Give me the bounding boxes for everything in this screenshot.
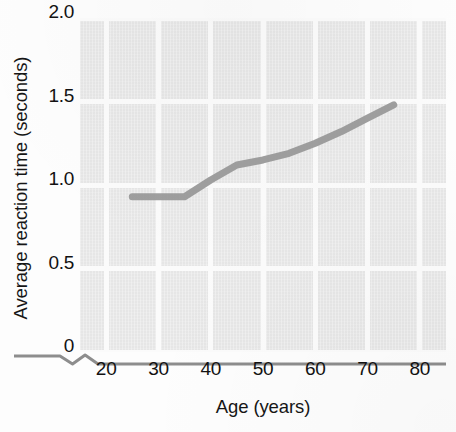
x-tick-label: 20 xyxy=(79,358,133,380)
gridline-horizontal xyxy=(80,18,446,21)
x-tick-label: 30 xyxy=(131,358,185,380)
y-tick-label: 0.5 xyxy=(28,253,74,272)
gridline-horizontal xyxy=(80,99,446,104)
x-tick-label: 80 xyxy=(393,358,447,380)
x-tick-label: 50 xyxy=(236,358,290,380)
x-axis-title: Age (years) xyxy=(80,396,446,418)
gridline-horizontal xyxy=(80,183,446,188)
y-tick-label: 1.5 xyxy=(28,86,74,105)
y-tick-label: 2.0 xyxy=(28,2,74,21)
y-tick-label: 1.0 xyxy=(28,169,74,188)
x-axis-tick-labels: 20304050607080 xyxy=(0,358,456,388)
gridline-horizontal xyxy=(80,266,446,271)
plot-area xyxy=(80,18,446,352)
x-tick-label: 40 xyxy=(184,358,238,380)
chart-figure: Average reaction time (seconds) 00.51.01… xyxy=(0,0,456,432)
x-tick-label: 60 xyxy=(288,358,342,380)
x-tick-label: 70 xyxy=(341,358,395,380)
